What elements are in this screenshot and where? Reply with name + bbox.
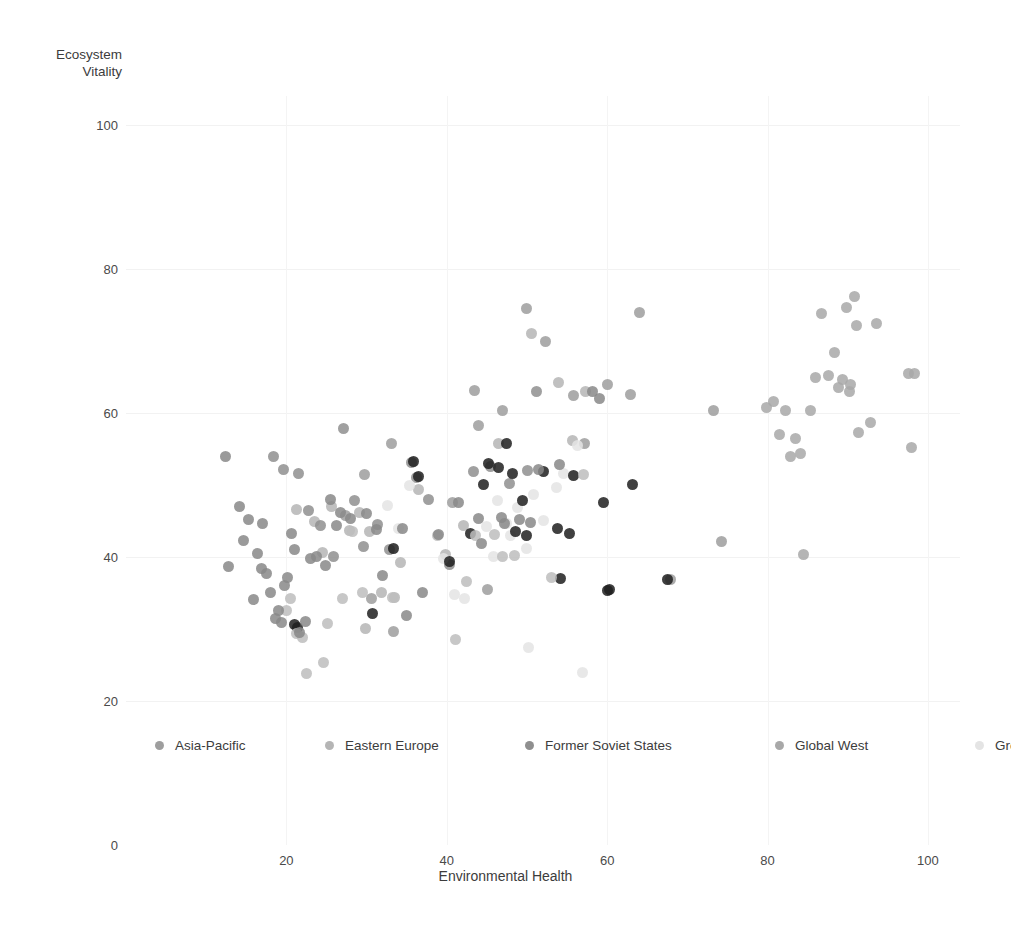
scatter-point bbox=[823, 370, 834, 381]
scatter-point bbox=[366, 593, 377, 604]
scatter-point bbox=[853, 427, 864, 438]
gridline-horizontal bbox=[126, 269, 960, 270]
scatter-point bbox=[538, 515, 549, 526]
legend-item[interactable]: Eastern Europe bbox=[325, 738, 525, 753]
scatter-point bbox=[553, 377, 564, 388]
scatter-point bbox=[377, 570, 388, 581]
scatter-point bbox=[497, 405, 508, 416]
scatter-point bbox=[360, 623, 371, 634]
scatter-point bbox=[285, 593, 296, 604]
x-axis-title: Environmental Health bbox=[0, 868, 1011, 884]
legend-item[interactable]: Greater Middle East bbox=[975, 738, 1011, 753]
scatter-point bbox=[554, 459, 565, 470]
scatter-point bbox=[417, 587, 428, 598]
y-tick-label: 60 bbox=[82, 405, 118, 420]
scatter-point bbox=[909, 368, 920, 379]
scatter-point bbox=[252, 548, 263, 559]
scatter-point bbox=[790, 433, 801, 444]
scatter-point bbox=[497, 551, 508, 562]
scatter-point bbox=[367, 608, 378, 619]
scatter-point bbox=[388, 543, 399, 554]
scatter-point bbox=[522, 465, 533, 476]
scatter-point bbox=[461, 576, 472, 587]
scatter-point bbox=[337, 593, 348, 604]
scatter-point bbox=[286, 528, 297, 539]
scatter-point bbox=[265, 587, 276, 598]
scatter-point bbox=[322, 618, 333, 629]
scatter-point bbox=[780, 405, 791, 416]
gridline-horizontal bbox=[126, 125, 960, 126]
scatter-point bbox=[478, 479, 489, 490]
scatter-point bbox=[523, 642, 534, 653]
scatter-point bbox=[761, 402, 772, 413]
scatter-point bbox=[708, 405, 719, 416]
scatter-point bbox=[268, 451, 279, 462]
scatter-point bbox=[716, 536, 727, 547]
scatter-point bbox=[468, 466, 479, 477]
legend-label: Eastern Europe bbox=[345, 738, 439, 753]
scatter-point bbox=[469, 385, 480, 396]
scatter-point bbox=[851, 320, 862, 331]
scatter-point bbox=[459, 593, 470, 604]
scatter-point bbox=[552, 523, 563, 534]
legend-swatch-icon bbox=[325, 741, 334, 750]
scatter-point bbox=[540, 336, 551, 347]
scatter-point bbox=[504, 478, 515, 489]
scatter-point bbox=[482, 584, 493, 595]
legend-item[interactable]: Asia-Pacific bbox=[155, 738, 325, 753]
scatter-point bbox=[347, 526, 358, 537]
scatter-point bbox=[533, 464, 544, 475]
scatter-point bbox=[303, 505, 314, 516]
x-tick-label: 80 bbox=[738, 853, 798, 868]
y-tick-label: 40 bbox=[82, 549, 118, 564]
scatter-point bbox=[906, 442, 917, 453]
scatter-point bbox=[349, 495, 360, 506]
scatter-point bbox=[325, 494, 336, 505]
gridline-horizontal bbox=[126, 413, 960, 414]
scatter-point bbox=[282, 572, 293, 583]
scatter-point bbox=[328, 551, 339, 562]
scatter-point bbox=[371, 524, 382, 535]
scatter-point bbox=[361, 508, 372, 519]
scatter-point bbox=[602, 379, 613, 390]
legend-label: Former Soviet States bbox=[545, 738, 672, 753]
legend-label: Greater Middle East bbox=[995, 738, 1011, 753]
scatter-point bbox=[388, 626, 399, 637]
scatter-point bbox=[521, 303, 532, 314]
scatter-point bbox=[493, 462, 504, 473]
legend-swatch-icon bbox=[975, 741, 984, 750]
gridline-horizontal bbox=[126, 701, 960, 702]
scatter-point bbox=[501, 438, 512, 449]
scatter-point bbox=[433, 529, 444, 540]
scatter-point bbox=[572, 440, 583, 451]
scatter-point bbox=[489, 529, 500, 540]
gridline-horizontal bbox=[126, 557, 960, 558]
legend-item[interactable]: Former Soviet States bbox=[525, 738, 775, 753]
scatter-point bbox=[315, 520, 326, 531]
scatter-point bbox=[413, 484, 424, 495]
y-axis-title: Ecosystem Vitality bbox=[0, 46, 122, 80]
legend-swatch-icon bbox=[775, 741, 784, 750]
legend: Asia-PacificEastern EuropeFormer Soviet … bbox=[155, 732, 985, 758]
scatter-point bbox=[844, 386, 855, 397]
legend-swatch-icon bbox=[155, 741, 164, 750]
scatter-point bbox=[577, 667, 588, 678]
scatter-point bbox=[521, 530, 532, 541]
scatter-point bbox=[248, 594, 259, 605]
legend-swatch-icon bbox=[525, 741, 534, 750]
scatter-point bbox=[473, 513, 484, 524]
scatter-chart-figure: Ecosystem Vitality 020406080100 20406080… bbox=[0, 0, 1011, 932]
legend-item[interactable]: Global West bbox=[775, 738, 975, 753]
scatter-point bbox=[359, 469, 370, 480]
scatter-point bbox=[829, 347, 840, 358]
scatter-point bbox=[810, 372, 821, 383]
legend-label: Global West bbox=[795, 738, 868, 753]
scatter-point bbox=[243, 514, 254, 525]
scatter-point bbox=[598, 497, 609, 508]
x-tick-label: 100 bbox=[898, 853, 958, 868]
scatter-point bbox=[234, 501, 245, 512]
scatter-point bbox=[386, 438, 397, 449]
y-tick-label: 80 bbox=[82, 261, 118, 276]
scatter-point bbox=[594, 393, 605, 404]
scatter-point bbox=[634, 307, 645, 318]
